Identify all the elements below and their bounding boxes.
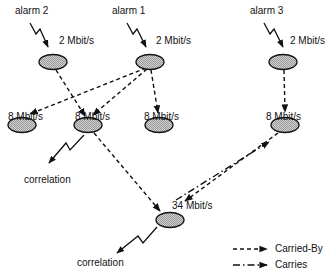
rate-label-8a: 8 Mbit/s xyxy=(8,111,43,122)
legend: Carried-By Carries xyxy=(233,243,323,270)
node-2mbit-alarm2[interactable] xyxy=(39,55,67,70)
correlation2-lightning-icon xyxy=(117,227,157,253)
correlation-arrows xyxy=(49,135,157,253)
alarm2-label: alarm 2 xyxy=(15,5,49,16)
carried-by-edges xyxy=(30,68,285,211)
network-diagram: alarm 2 alarm 1 alarm 3 2 Mbit/s 2 Mbit/… xyxy=(0,0,336,278)
node-34mbit[interactable] xyxy=(156,213,184,228)
edge-2a-to-8b xyxy=(56,70,85,116)
edge-34-to-8d xyxy=(176,142,269,200)
alarm1-lightning-icon xyxy=(127,23,146,47)
rate-label-2a: 2 Mbit/s xyxy=(59,35,94,46)
correlation1-lightning-icon xyxy=(49,135,84,163)
rate-label-2c: 2 Mbit/s xyxy=(290,35,325,46)
labels: alarm 2 alarm 1 alarm 3 2 Mbit/s 2 Mbit/… xyxy=(8,5,325,268)
edge-2b-to-8a xyxy=(30,68,146,114)
edge-8d-to-34 xyxy=(185,133,278,201)
rate-label-8c: 8 Mbit/s xyxy=(144,111,179,122)
correlation-label-2: correlation xyxy=(77,257,124,268)
edge-8b-to-34 xyxy=(94,133,160,211)
node-2mbit-alarm3[interactable] xyxy=(269,55,297,70)
edge-2b-to-8c xyxy=(151,70,158,113)
alarm1-label: alarm 1 xyxy=(112,5,146,16)
alarm3-label: alarm 3 xyxy=(250,5,284,16)
correlation-label-1: correlation xyxy=(24,174,71,185)
node-2mbit-alarm1[interactable] xyxy=(136,55,164,70)
rate-label-8b: 8 Mbit/s xyxy=(75,111,110,122)
alarm3-lightning-icon xyxy=(264,23,283,47)
edge-2c-to-8d xyxy=(284,70,285,112)
legend-carries-label: Carries xyxy=(275,259,307,270)
rate-label-34: 34 Mbit/s xyxy=(172,200,213,211)
alarm2-lightning-icon xyxy=(30,23,48,47)
legend-carried-by-label: Carried-By xyxy=(275,243,323,254)
rate-label-2b: 2 Mbit/s xyxy=(156,35,191,46)
edge-2b-to-8b xyxy=(93,69,147,115)
rate-label-8d: 8 Mbit/s xyxy=(266,111,301,122)
carries-edges xyxy=(176,142,269,200)
nodes xyxy=(8,55,299,228)
